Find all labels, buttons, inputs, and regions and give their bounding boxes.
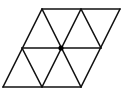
diagonal-fall-2 [81, 9, 101, 48]
diagonal-fall-0 [22, 48, 42, 87]
center-dot [58, 45, 63, 50]
diagram-container [0, 0, 122, 94]
triangle-grid-diagram [0, 0, 122, 94]
